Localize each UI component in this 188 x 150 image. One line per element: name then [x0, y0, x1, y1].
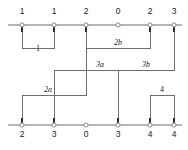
bracket-1-label: 1: [36, 44, 40, 53]
node-marker-b6[interactable]: [172, 123, 176, 127]
bracket-3-label-b: 3b: [141, 60, 150, 69]
node-marker-b2[interactable]: [52, 123, 56, 127]
node-marker-b1[interactable]: [20, 123, 24, 127]
node-marker-t1[interactable]: [20, 23, 24, 27]
node-marker-t2[interactable]: [52, 23, 56, 27]
bracket-4-path: [150, 95, 174, 125]
bracket-2b-label: 2b: [114, 38, 122, 47]
node-marker-t4[interactable]: [116, 23, 120, 27]
diagram-canvas: 12b3a3b2a4112023230344: [0, 0, 188, 150]
node-label-b5: 4: [148, 129, 153, 139]
node-label-b3: 0: [84, 129, 89, 139]
node-label-t5: 2: [148, 6, 153, 16]
bracket-4: 4: [150, 85, 174, 125]
node-marker-t3[interactable]: [84, 23, 88, 27]
diagram-root: 12b3a3b2a4112023230344: [0, 0, 188, 150]
node-label-t4: 0: [116, 6, 121, 16]
bracket-2b: 2b: [86, 25, 150, 48]
node-label-b1: 2: [20, 129, 25, 139]
bracket-4-label: 4: [160, 85, 164, 94]
bracket-1: 1: [22, 25, 54, 53]
bottom-axis: 230344: [8, 118, 182, 139]
bracket-2a-label: 2a: [44, 85, 52, 94]
node-label-t1: 1: [20, 6, 25, 16]
node-label-b6: 4: [172, 129, 177, 139]
bracket-3-label-a: 3a: [95, 60, 104, 69]
node-marker-b5[interactable]: [148, 123, 152, 127]
node-label-b4: 3: [116, 129, 121, 139]
bracket-3-path: [54, 25, 174, 95]
node-marker-b4[interactable]: [116, 123, 120, 127]
node-marker-t5[interactable]: [148, 23, 152, 27]
top-axis: 112023: [8, 6, 182, 32]
node-marker-t6[interactable]: [172, 23, 176, 27]
node-label-b2: 3: [52, 129, 57, 139]
node-label-t6: 3: [172, 6, 177, 16]
node-label-t2: 1: [52, 6, 57, 16]
node-marker-b3[interactable]: [84, 123, 88, 127]
node-label-t3: 2: [84, 6, 89, 16]
